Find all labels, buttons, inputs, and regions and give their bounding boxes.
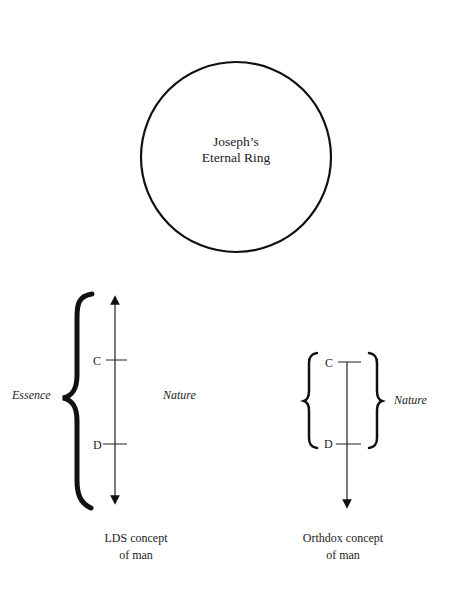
- essence-brace: [63, 294, 92, 508]
- lds-caption-line1: LDS concept: [105, 531, 169, 545]
- orthodox-tick-c-label: C: [325, 356, 333, 370]
- lds-concept-diagram: Essence C D Nature LDS concept of man: [11, 294, 197, 562]
- orthodox-caption-line2: of man: [326, 548, 360, 562]
- ring-label-line2: Eternal Ring: [202, 150, 271, 165]
- orthodox-caption-line1: Orthdox concept: [303, 531, 384, 545]
- eternal-ring: Joseph’s Eternal Ring: [141, 62, 331, 252]
- orthodox-left-brace: [304, 353, 317, 448]
- lds-tick-c-label: C: [93, 354, 101, 368]
- lds-caption-line2: of man: [119, 548, 153, 562]
- lds-tick-d-label: D: [93, 438, 102, 452]
- diagram-canvas: Joseph’s Eternal Ring Essence C D Nature…: [0, 0, 452, 594]
- orthodox-right-brace: [369, 353, 382, 448]
- ring-label-line1: Joseph’s: [213, 134, 259, 149]
- orthodox-concept-diagram: C D Nature Orthdox concept of man: [303, 353, 428, 562]
- orthodox-nature-label: Nature: [393, 393, 428, 407]
- essence-label: Essence: [11, 388, 51, 402]
- orthodox-tick-d-label: D: [324, 437, 333, 451]
- lds-nature-label: Nature: [162, 388, 197, 402]
